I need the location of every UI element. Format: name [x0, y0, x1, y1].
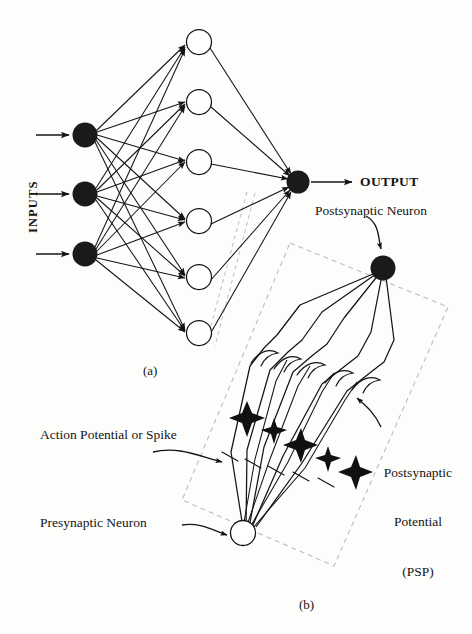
- hidden-layer-nodes: [187, 30, 212, 346]
- psp-label-line-2: Potential: [368, 514, 468, 530]
- panel-a-group: [36, 30, 352, 347]
- callout-presynaptic-neuron: [182, 524, 227, 535]
- figure-root: INPUTS OUTPUT Postsynaptic Neuron Action…: [0, 0, 472, 634]
- callout-psp: [357, 398, 381, 427]
- synaptic-terminal-2: [274, 357, 301, 372]
- postsynaptic-neuron-node: [371, 256, 396, 281]
- hidden-node-1: [187, 30, 212, 55]
- synaptic-terminal-5: [352, 378, 380, 393]
- tick-1: [222, 452, 238, 461]
- axon-branch-2: [246, 274, 376, 528]
- axon-branch-4: [252, 275, 382, 527]
- hidden-node-4: [187, 209, 212, 234]
- axon-branch-1: [231, 274, 373, 528]
- input-node-1: [73, 123, 98, 148]
- input-node-2: [73, 182, 98, 207]
- presynaptic-neuron-label: Presynaptic Neuron: [40, 515, 147, 531]
- psp-label: Postsynaptic Potential (PSP): [368, 432, 468, 613]
- input-arrows: [36, 135, 69, 254]
- hidden-node-5: [187, 265, 212, 290]
- caption-b: (b): [299, 597, 314, 612]
- input-hidden-edges: [95, 45, 185, 332]
- hidden-node-2: [187, 90, 212, 115]
- caption-a: (a): [143, 363, 157, 378]
- postsynaptic-neuron-label: Postsynaptic Neuron: [315, 203, 427, 219]
- spike-marker-3: [283, 428, 318, 463]
- callout-postsynaptic-neuron: [366, 216, 381, 249]
- hidden-output-edges: [209, 48, 291, 336]
- action-potential-label: Action Potential or Spike: [40, 427, 177, 443]
- callout-action-potential: [153, 450, 222, 462]
- hidden-node-3: [187, 150, 212, 175]
- input-node-3: [73, 242, 98, 267]
- tick-3: [268, 466, 284, 475]
- synaptic-terminals: [251, 351, 380, 393]
- inputs-label: INPUTS: [26, 181, 41, 233]
- synaptic-terminal-1: [251, 351, 278, 366]
- axon-tick-marks: [222, 452, 334, 487]
- output-node: [287, 171, 310, 194]
- output-label: OUTPUT: [360, 174, 419, 190]
- psp-label-line-3: (PSP): [368, 564, 468, 580]
- hidden-node-6: [187, 321, 212, 346]
- tick-5: [318, 478, 334, 487]
- presynaptic-neuron-node: [231, 521, 256, 546]
- input-layer-nodes: [73, 123, 98, 267]
- synaptic-terminal-4: [325, 371, 353, 386]
- spike-marker-4: [315, 446, 341, 472]
- psp-label-line-1: Postsynaptic: [368, 465, 468, 481]
